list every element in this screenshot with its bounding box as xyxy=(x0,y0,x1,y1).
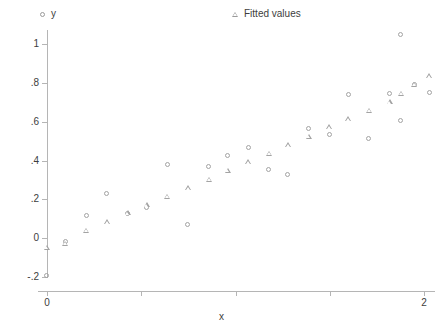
data-point-fitted xyxy=(345,116,351,121)
data-point-fitted xyxy=(326,124,332,129)
data-point-y xyxy=(185,222,190,227)
y-axis-tick-label: 1 xyxy=(9,39,39,49)
data-point-y xyxy=(398,118,403,123)
y-axis-tick xyxy=(42,199,47,200)
data-point-fitted xyxy=(366,108,372,113)
data-point-fitted xyxy=(125,210,131,215)
data-point-y xyxy=(165,162,170,167)
data-point-y xyxy=(327,132,332,137)
plot-area: 1.8.6.4.20-.2 02 xyxy=(0,0,443,326)
y-axis-tick xyxy=(42,161,47,162)
data-point-fitted xyxy=(225,168,231,173)
data-point-fitted xyxy=(164,194,170,199)
data-point-y xyxy=(387,91,392,96)
data-point-fitted xyxy=(266,151,272,156)
data-point-y xyxy=(346,92,351,97)
data-point-y xyxy=(225,153,230,158)
y-axis-tick-label: 0 xyxy=(9,233,39,243)
y-axis-tick-label: .6 xyxy=(9,117,39,127)
x-axis-tick xyxy=(47,291,48,296)
x-axis-tick xyxy=(330,291,331,296)
data-point-fitted xyxy=(206,177,212,182)
y-axis-tick-label: .2 xyxy=(9,194,39,204)
x-axis-tick-label: 2 xyxy=(412,298,436,308)
data-point-y xyxy=(44,273,49,278)
x-axis-line xyxy=(38,291,435,292)
data-point-y xyxy=(104,191,109,196)
data-point-y xyxy=(246,145,251,150)
x-axis-tick-label: 0 xyxy=(35,298,59,308)
data-point-fitted xyxy=(104,219,110,224)
data-point-fitted xyxy=(411,82,417,87)
data-point-y xyxy=(206,164,211,169)
data-point-fitted xyxy=(306,134,312,139)
y-axis-tick xyxy=(42,238,47,239)
y-axis-tick-label: -.2 xyxy=(9,272,39,282)
data-point-fitted xyxy=(285,142,291,147)
data-point-y xyxy=(84,213,89,218)
data-point-fitted xyxy=(62,241,68,246)
data-point-fitted xyxy=(83,228,89,233)
x-axis-tick xyxy=(236,291,237,296)
x-axis-title: x xyxy=(0,312,443,322)
data-point-fitted xyxy=(185,185,191,190)
data-point-y xyxy=(427,90,432,95)
y-axis-tick xyxy=(42,83,47,84)
x-axis-tick xyxy=(424,291,425,296)
data-point-fitted xyxy=(398,91,404,96)
data-point-fitted xyxy=(44,245,50,250)
data-point-y xyxy=(285,172,290,177)
data-point-fitted xyxy=(426,73,432,78)
data-point-fitted xyxy=(245,159,251,164)
data-point-y xyxy=(306,126,311,131)
y-axis-tick xyxy=(42,44,47,45)
y-axis-tick-label: .4 xyxy=(9,156,39,166)
data-point-y xyxy=(398,32,403,37)
data-point-fitted xyxy=(387,99,393,104)
x-axis-tick xyxy=(141,291,142,296)
data-point-y xyxy=(266,167,271,172)
y-axis-line xyxy=(47,30,48,278)
y-axis-tick xyxy=(42,122,47,123)
scatter-plot-figure: y Fitted values 1.8.6.4.20-.2 02 x xyxy=(0,0,443,326)
data-point-fitted xyxy=(144,202,150,207)
y-axis-tick-label: .8 xyxy=(9,78,39,88)
data-point-y xyxy=(366,136,371,141)
